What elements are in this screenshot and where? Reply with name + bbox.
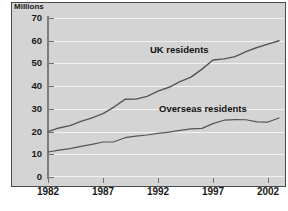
series-label-uk-residents: UK residents [150, 44, 209, 55]
line-chart-figure: Millions 70 60 50 40 30 20 10 0 1982 198… [0, 0, 288, 211]
series-label-overseas-residents: Overseas residents [159, 103, 247, 114]
series-line-overseas-residents [48, 118, 279, 152]
